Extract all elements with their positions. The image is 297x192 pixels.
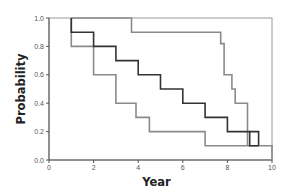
y-tick-label: 0.8 [34, 43, 44, 50]
y-axis-title: Probability [14, 53, 28, 125]
x-tick-label: 2 [92, 164, 96, 171]
curve-upper-gray [71, 18, 247, 146]
x-axis-title: Year [141, 175, 171, 189]
y-tick-label: 0.6 [34, 71, 44, 78]
x-tick-label: 4 [136, 164, 140, 171]
y-tick-label: 0.2 [34, 128, 44, 135]
x-tick-label: 6 [181, 164, 185, 171]
survival-chart: 0.00.20.40.60.81.00246810 Year Probabili… [0, 0, 297, 192]
curve-middle-black [71, 18, 258, 146]
series-group [71, 18, 272, 160]
curve-middle-black-tail [250, 132, 259, 146]
x-tick-label: 0 [47, 164, 51, 171]
y-tick-label: 0.4 [34, 100, 44, 107]
y-tick-label: 0.0 [34, 157, 44, 164]
x-tick-label: 10 [268, 164, 276, 171]
y-tick-label: 1.0 [34, 15, 44, 22]
x-tick-label: 8 [225, 164, 229, 171]
